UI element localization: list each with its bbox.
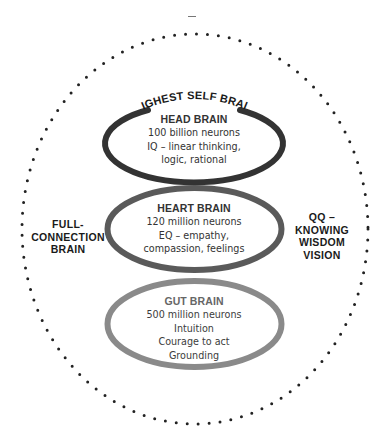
right-label-line: KNOWING xyxy=(292,224,352,237)
right-label-line: QQ – xyxy=(292,211,352,224)
right-label-line: VISION xyxy=(292,249,352,262)
heart-brain-title: HEART BRAIN xyxy=(114,201,274,215)
gut-brain-line: 500 million neurons xyxy=(114,308,274,322)
right-label-line: WISDOM xyxy=(292,236,352,249)
head-brain-title: HEAD BRAIN xyxy=(114,112,274,126)
heart-brain-line: 120 million neurons xyxy=(114,215,274,229)
highest-self-brain-label: HIGHEST SELF BRAIN xyxy=(0,0,249,112)
gut-brain-line: Grounding xyxy=(114,349,274,363)
head-brain-line: logic, rational xyxy=(114,153,274,167)
gut-brain-line: Intuition xyxy=(114,322,274,336)
head-brain-text: HEAD BRAIN 100 billion neurons IQ – line… xyxy=(114,112,274,167)
left-label-line: FULL- xyxy=(28,218,108,231)
heart-brain-line: compassion, feelings xyxy=(114,242,274,256)
brain-diagram: HIGHEST SELF BRAIN HEAD BRAIN 100 billio… xyxy=(0,0,378,447)
left-label-line: CONNECTION xyxy=(28,231,108,244)
qq-knowing-wisdom-vision-label: QQ – KNOWING WISDOM VISION xyxy=(292,211,352,261)
gut-brain-title: GUT BRAIN xyxy=(114,294,274,308)
gut-brain-line: Courage to act xyxy=(114,335,274,349)
heart-brain-text: HEART BRAIN 120 million neurons EQ – emp… xyxy=(114,201,274,256)
gut-brain-text: GUT BRAIN 500 million neurons Intuition … xyxy=(114,294,274,362)
heart-brain-line: EQ – empathy, xyxy=(114,229,274,243)
head-brain-line: IQ – linear thinking, xyxy=(114,140,274,154)
head-brain-line: 100 billion neurons xyxy=(114,126,274,140)
full-connection-brain-label: FULL- CONNECTION BRAIN xyxy=(28,218,108,256)
left-label-line: BRAIN xyxy=(28,243,108,256)
